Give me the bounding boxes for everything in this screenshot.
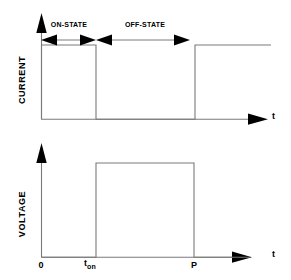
voltage-y-axis-arrowhead (36, 143, 46, 163)
t-on-subscript: on (87, 263, 96, 270)
voltage-axis-label: VOLTAGE (17, 178, 27, 250)
off-state-arrowhead-right (174, 34, 190, 45)
current-waveform-trace (42, 45, 272, 119)
voltage-time-axis-label: t (272, 249, 275, 259)
waveform-diagram (0, 0, 291, 280)
off-state-arrowhead-left (96, 34, 112, 45)
current-axis-label: CURRENT (17, 44, 27, 116)
origin-tick-label: 0 (33, 260, 49, 270)
on-state-arrowhead-right (80, 34, 96, 45)
current-x-axis-arrowhead (248, 114, 268, 125)
current-time-axis-label: t (272, 111, 275, 121)
on-state-label: ON-STATE (41, 21, 97, 28)
t-on-tick-label: ton (84, 258, 110, 270)
off-state-label: OFF-STATE (98, 21, 192, 28)
voltage-waveform-trace (42, 163, 251, 257)
on-state-arrowhead-left (41, 34, 57, 45)
period-tick-label: P (186, 260, 202, 270)
